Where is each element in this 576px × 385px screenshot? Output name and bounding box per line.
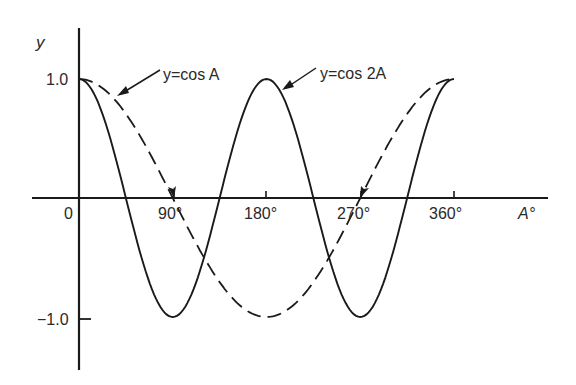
x-tick-label-360: 360° xyxy=(429,205,462,222)
arrowhead-cos2A-icon xyxy=(282,80,294,90)
annot-arrow-cosA xyxy=(124,70,160,92)
y-axis-label: y xyxy=(35,33,46,52)
y-tick-label-pos: 1.0 xyxy=(46,71,68,88)
annotation-cos-a: y=cos A xyxy=(163,66,220,83)
y-tick-label-neg: −1.0 xyxy=(37,311,69,328)
x-tick-label-180: 180° xyxy=(244,205,277,222)
annot-arrow-cos2A xyxy=(289,68,316,86)
origin-label: 0 xyxy=(64,205,73,222)
x-tick-label-270: 270° xyxy=(337,205,370,222)
arrowhead-cosA-icon xyxy=(117,86,129,96)
x-axis-label: A° xyxy=(517,205,536,222)
x-tick-label-90: 90° xyxy=(158,205,182,222)
trig-chart: y 1.0 −1.0 0 90° 180° 270° 360° A° y=cos… xyxy=(0,0,576,385)
annotation-cos-2a: y=cos 2A xyxy=(320,65,387,82)
arrowhead-270-icon xyxy=(360,186,369,198)
